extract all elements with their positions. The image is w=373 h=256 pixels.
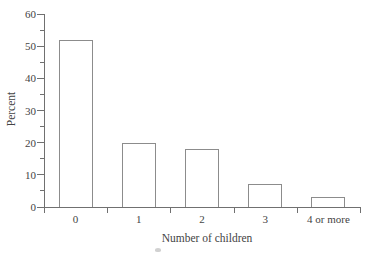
y-major-tick — [37, 14, 44, 15]
x-axis-title: Number of children — [107, 232, 307, 245]
y-minor-tick — [40, 62, 44, 63]
y-minor-tick — [40, 190, 44, 191]
y-minor-tick — [40, 30, 44, 31]
x-category-label: 3 — [230, 213, 300, 225]
bar — [185, 149, 219, 207]
y-major-tick — [37, 110, 44, 111]
y-major-tick — [37, 174, 44, 175]
y-major-tick — [37, 46, 44, 47]
x-category-label: 1 — [104, 213, 174, 225]
y-tick-label: 0 — [6, 201, 36, 213]
y-axis-title: Percent — [4, 79, 18, 139]
y-minor-tick — [40, 94, 44, 95]
x-category-label: 0 — [41, 213, 111, 225]
y-tick-label: 10 — [6, 169, 36, 181]
x-axis-line — [44, 207, 361, 208]
bar-chart-figure: 010203040506001234 or more Percent Numbe… — [0, 0, 373, 256]
bar — [122, 143, 156, 207]
bar — [59, 40, 93, 207]
y-major-tick — [37, 78, 44, 79]
y-major-tick — [37, 142, 44, 143]
y-tick-label: 60 — [6, 8, 36, 20]
x-category-label: 2 — [167, 213, 237, 225]
y-minor-tick — [40, 158, 44, 159]
print-artifact — [155, 248, 161, 252]
bar — [248, 184, 282, 207]
x-category-label: 4 or more — [293, 213, 363, 225]
plot-area: 010203040506001234 or more — [0, 0, 373, 256]
y-minor-tick — [40, 126, 44, 127]
y-tick-label: 50 — [6, 40, 36, 52]
bar — [311, 197, 345, 207]
y-major-tick — [37, 207, 44, 208]
y-axis-line — [44, 14, 45, 207]
